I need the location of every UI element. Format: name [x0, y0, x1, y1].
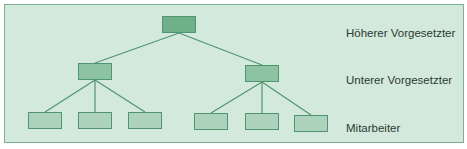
node-employee-1: [28, 112, 62, 129]
node-employee-5: [245, 113, 279, 130]
level-label-employees: Mitarbeiter: [346, 121, 400, 135]
node-lower-supervisor-right: [245, 65, 279, 82]
node-employee-6: [294, 115, 328, 132]
node-lower-supervisor-left: [78, 63, 112, 80]
node-employee-4: [194, 113, 228, 130]
node-higher-supervisor: [162, 16, 196, 33]
level-label-lower-supervisor: Unterer Vorgesetzter: [346, 73, 452, 87]
level-label-higher-supervisor: Höherer Vorgesetzter: [346, 26, 455, 40]
node-employee-2: [78, 112, 112, 129]
node-employee-3: [128, 112, 162, 129]
